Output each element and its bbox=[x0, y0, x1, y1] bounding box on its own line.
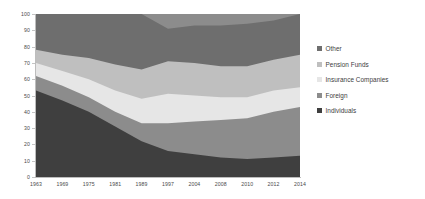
legend-swatch-icon bbox=[317, 46, 322, 51]
legend-item-label: Foreign bbox=[326, 92, 348, 99]
y-axis-tick-label: 70 bbox=[4, 60, 30, 66]
legend-item-label: Individuals bbox=[326, 107, 357, 114]
legend-item-pension-funds[interactable]: Pension Funds bbox=[317, 57, 421, 73]
y-axis-tick-label: 40 bbox=[4, 109, 30, 115]
legend-item-label: Insurance Companies bbox=[326, 76, 389, 83]
legend-item-individuals[interactable]: Individuals bbox=[317, 103, 421, 119]
plot-area bbox=[36, 14, 300, 177]
chart-root: 1009080706050403020100 19631969197519811… bbox=[0, 0, 425, 199]
stacked-area-svg bbox=[36, 14, 300, 177]
legend-swatch-icon bbox=[317, 62, 322, 67]
x-axis-line bbox=[35, 177, 301, 178]
legend-swatch-icon bbox=[317, 77, 322, 82]
legend-swatch-icon bbox=[317, 93, 322, 98]
y-axis-tick-label: 10 bbox=[4, 158, 30, 164]
y-axis-tick-label: 60 bbox=[4, 76, 30, 82]
legend-swatch-icon bbox=[317, 108, 322, 113]
legend-item-label: Other bbox=[326, 45, 342, 52]
y-axis-tick-label: 0 bbox=[4, 174, 30, 180]
chart-legend: OtherPension FundsInsurance CompaniesFor… bbox=[317, 41, 421, 119]
y-axis-tick-label: 30 bbox=[4, 125, 30, 131]
legend-item-insurance-companies[interactable]: Insurance Companies bbox=[317, 72, 421, 88]
y-axis-tick-label: 50 bbox=[4, 93, 30, 99]
y-axis-tick-label: 80 bbox=[4, 44, 30, 50]
y-axis-tick-label: 20 bbox=[4, 141, 30, 147]
legend-item-foreign[interactable]: Foreign bbox=[317, 88, 421, 104]
x-axis-tick-label: 2014 bbox=[285, 181, 315, 187]
legend-item-other[interactable]: Other bbox=[317, 41, 421, 57]
legend-item-label: Pension Funds bbox=[326, 61, 369, 68]
y-axis-tick-label: 100 bbox=[4, 11, 30, 17]
y-axis-tick-label: 90 bbox=[4, 27, 30, 33]
